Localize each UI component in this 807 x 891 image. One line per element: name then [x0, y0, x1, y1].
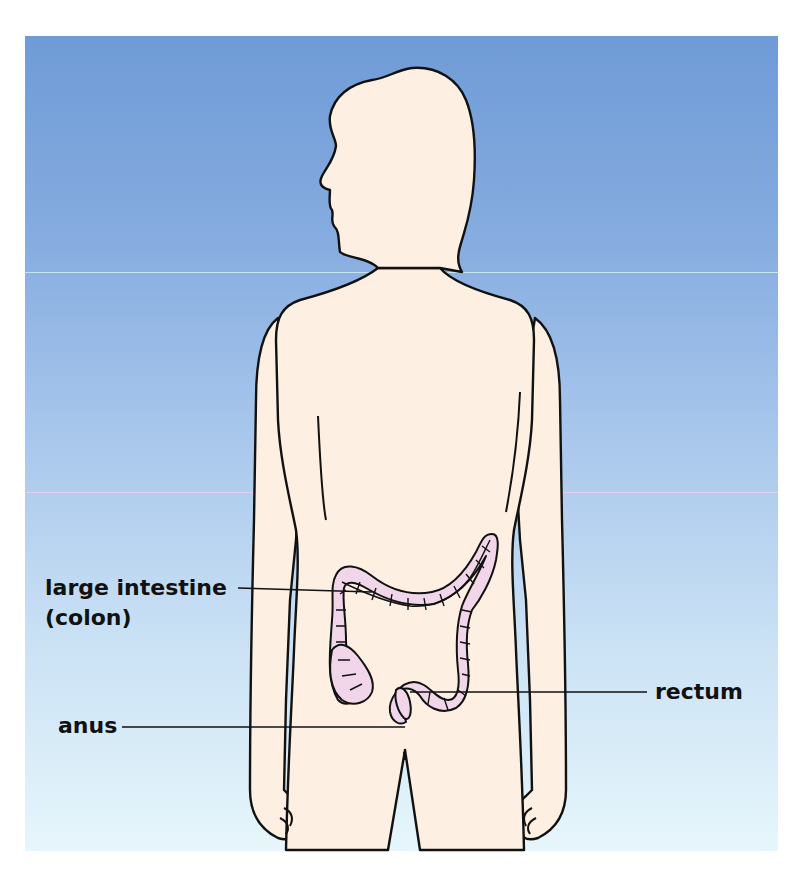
label-anus: anus: [58, 711, 117, 741]
label-rectum: rectum: [655, 677, 743, 707]
body-illustration: [0, 0, 807, 891]
body-silhouette: [250, 68, 566, 850]
head: [320, 68, 474, 272]
label-large-intestine: large intestine (colon): [45, 573, 227, 633]
label-large-intestine-line1: large intestine: [45, 573, 227, 603]
label-large-intestine-line2: (colon): [45, 603, 227, 633]
